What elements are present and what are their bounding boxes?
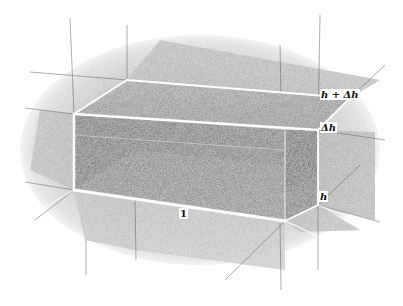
- label-height: h: [319, 191, 328, 202]
- label-increment: Δh: [320, 122, 337, 133]
- label-increment-text: Δh: [321, 122, 336, 133]
- label-base-length: 1: [179, 208, 188, 219]
- diagram-canvas: h + Δh Δh h 1: [0, 0, 403, 306]
- label-height-text: h: [320, 191, 327, 202]
- box-grid-illustration: [0, 0, 403, 306]
- label-top-height-text: h + Δh: [321, 89, 359, 100]
- label-top-height: h + Δh: [320, 89, 360, 100]
- label-base-length-text: 1: [180, 208, 187, 219]
